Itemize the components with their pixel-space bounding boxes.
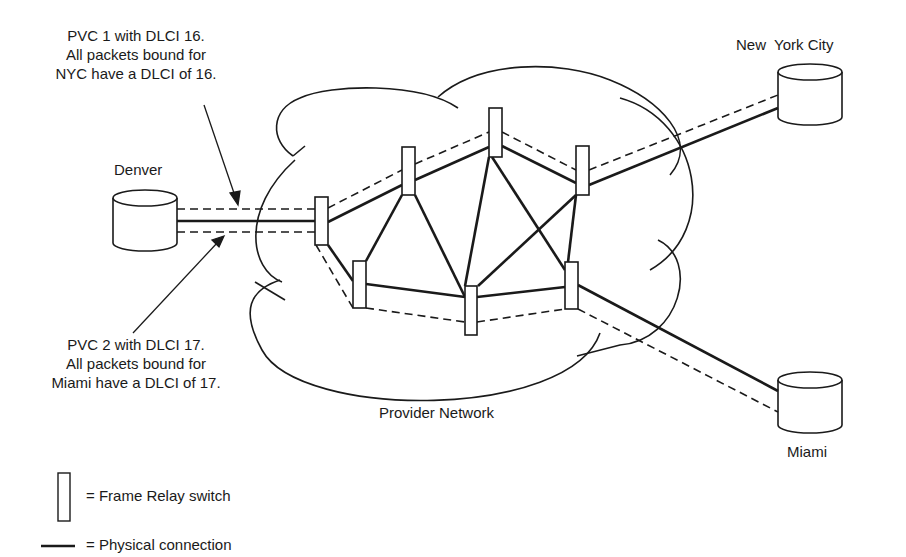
pvc1-line2: All packets bound for [16, 45, 256, 64]
nyc-router-icon [778, 64, 842, 125]
arrow-head-icon [212, 236, 224, 247]
pvc1-line3: NYC have a DLCI of 16. [16, 64, 256, 83]
legend-switch-text: = Frame Relay switch [86, 487, 231, 504]
frame-relay-switch-icon [465, 286, 477, 335]
pvc2-line3: Miami have a DLCI of 17. [16, 373, 256, 392]
physical-connections [177, 108, 778, 391]
provider-network-label: Provider Network [379, 403, 494, 422]
frame-relay-switch-icon [565, 262, 578, 309]
denver-router-icon [113, 190, 177, 251]
miami-router-icon [778, 372, 842, 433]
frame-relay-switch-icon [353, 261, 366, 308]
legend-physical-text: = Physical connection [86, 536, 232, 553]
pvc-paths [177, 95, 778, 412]
miami-label: Miami [787, 442, 827, 461]
legend-switch-icon [58, 473, 70, 521]
frame-relay-switch-icon [402, 147, 415, 195]
pvc1-line1: PVC 1 with DLCI 16. [16, 26, 256, 45]
pvc1-annotation: PVC 1 with DLCI 16. All packets bound fo… [16, 26, 256, 83]
pvc2-line2: All packets bound for [16, 354, 256, 373]
frame-relay-switch-icon [489, 108, 502, 157]
frame-relay-diagram [0, 0, 906, 557]
denver-label: Denver [114, 160, 162, 179]
frame-relay-switch-icon [576, 146, 589, 195]
frame-relay-switch-icon [315, 197, 328, 245]
nyc-label: New York City [736, 35, 834, 54]
pvc2-annotation: PVC 2 with DLCI 17. All packets bound fo… [16, 335, 256, 392]
arrow-head-icon [230, 191, 240, 205]
pvc2-line1: PVC 2 with DLCI 17. [16, 335, 256, 354]
